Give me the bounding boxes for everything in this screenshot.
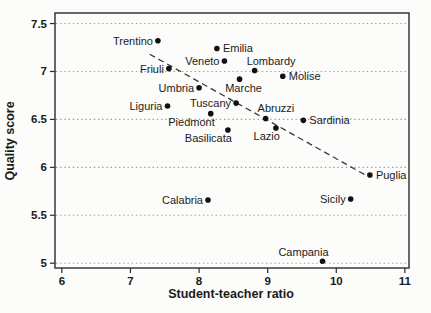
point-label-liguria: Liguria [129,100,163,112]
data-point-campania [320,258,326,264]
data-point-umbria [196,85,202,91]
x-tick-label: 9 [264,275,270,287]
data-point-tuscany [233,100,239,106]
point-label-basilicata: Basilicata [185,132,233,144]
y-tick-label: 7.5 [31,18,48,30]
scatter-plot-figure: Student-teacher ratio Quality score 55.5… [0,0,431,313]
x-tick-label: 10 [330,275,343,287]
point-label-umbria: Umbria [159,82,195,94]
data-point-abruzzi [263,116,269,122]
point-label-calabria: Calabria [162,194,204,206]
point-label-veneto: Veneto [185,55,219,67]
x-tick-label: 11 [399,275,412,287]
point-label-puglia: Puglia [376,169,407,181]
data-point-emilia [214,46,220,52]
point-label-marche: Marche [225,82,262,94]
data-point-veneto [222,58,228,64]
point-label-lazio: Lazio [254,130,280,142]
x-tick-label: 6 [59,275,65,287]
data-point-molise [280,73,286,79]
data-point-puglia [367,172,373,178]
point-label-tuscany: Tuscany [190,97,232,109]
quality-vs-student-teacher-chart: Student-teacher ratio Quality score 55.5… [0,0,431,313]
x-tick-label: 7 [127,275,133,287]
y-tick-label: 5.5 [31,209,48,221]
point-label-trentino: Trentino [113,35,153,47]
point-label-sicily: Sicily [320,193,346,205]
x-axis-title: Student-teacher ratio [168,287,294,301]
point-label-campania: Campania [278,246,329,258]
x-tick-label: 8 [196,275,203,287]
data-point-lombardy [252,68,258,74]
data-point-sicily [348,196,354,202]
y-tick-label: 5 [41,257,48,269]
data-point-calabria [205,197,211,203]
point-label-friuli: Friuli [140,63,164,75]
data-point-sardinia [301,118,307,124]
point-label-abruzzi: Abruzzi [258,102,295,114]
point-label-emilia: Emilia [223,42,254,54]
data-point-friuli [166,66,172,72]
point-label-sardinia: Sardinia [309,114,350,126]
point-label-molise: Molise [289,70,321,82]
y-tick-label: 6.5 [31,113,48,125]
data-point-marche [237,76,243,82]
point-label-piedmont: Piedmont [168,116,214,128]
data-point-liguria [165,103,171,109]
y-tick-label: 6 [41,161,47,173]
y-tick-label: 7 [41,65,47,77]
point-label-lombardy: Lombardy [247,55,296,67]
data-point-trentino [155,38,161,44]
y-axis-title: Quality score [3,101,17,180]
